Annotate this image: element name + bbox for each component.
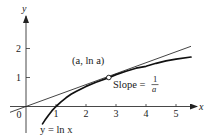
- x-tick-label-4: 4: [144, 108, 149, 119]
- slope-denominator: a: [152, 84, 156, 94]
- ln-tangent-figure: x y 0 1 2 3 4 5 1 2 (a, ln: [0, 0, 215, 139]
- graph-canvas: x y 0 1 2 3 4 5 1 2 (a, ln: [0, 0, 215, 139]
- tangent-point-label: (a, ln a): [72, 55, 105, 67]
- x-tick-label-5: 5: [174, 108, 179, 119]
- x-tick-label-1: 1: [54, 108, 59, 119]
- tangent-point-marker: [107, 75, 112, 80]
- curve-label: y = ln x: [40, 124, 73, 135]
- x-tick-label-3: 3: [114, 108, 119, 119]
- origin-label: 0: [17, 109, 22, 120]
- x-tick-label-2: 2: [84, 108, 89, 119]
- y-tick-label-2: 2: [16, 43, 21, 54]
- slope-numerator: 1: [153, 74, 157, 84]
- y-tick-label-1: 1: [16, 72, 21, 83]
- y-ticks: 1 2: [16, 43, 30, 83]
- x-axis-label: x: [198, 101, 204, 112]
- slope-label: Slope =: [113, 79, 146, 90]
- y-axis-label: y: [21, 3, 27, 14]
